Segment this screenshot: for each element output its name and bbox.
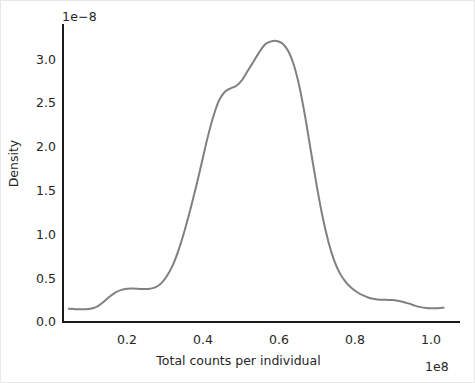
x-axis-label: Total counts per individual (1, 353, 475, 368)
x-tick-label: 0.4 (193, 332, 213, 347)
y-tick-label: 0.5 (36, 271, 56, 286)
x-tick-label: 1.0 (421, 332, 441, 347)
y-tick-label: 0.0 (36, 314, 56, 329)
density-curve-svg (63, 24, 459, 321)
y-axis-offset-label: 1e−8 (62, 9, 97, 24)
density-curve (69, 41, 444, 310)
y-tick-label: 1.5 (36, 183, 56, 198)
y-tick-label: 2.5 (36, 95, 56, 110)
y-axis-label: Density (6, 94, 21, 234)
x-tick-label: 0.2 (117, 332, 137, 347)
y-tick-label: 2.0 (36, 139, 56, 154)
y-tick-label: 3.0 (36, 52, 56, 67)
y-tick-label: 1.0 (36, 227, 56, 242)
x-axis-spine (62, 321, 460, 323)
x-tick-label: 0.8 (345, 332, 365, 347)
x-tick-label: 0.6 (269, 332, 289, 347)
density-plot-figure: 1e−8 3.0 2.5 2.0 1.5 1.0 0.5 0.0 0.2 0.4… (0, 0, 475, 383)
plot-area (63, 24, 459, 321)
